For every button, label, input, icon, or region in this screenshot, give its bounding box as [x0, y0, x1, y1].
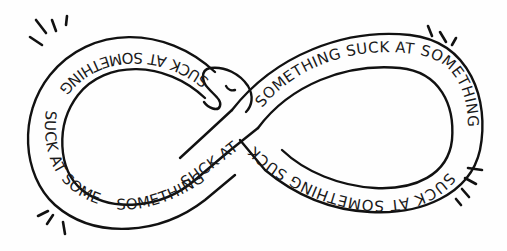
snake-eye-icon [226, 86, 235, 90]
infinity-illustration: SUCK AT SOMETHING SUCK AT SOMETHING SOME… [0, 0, 507, 251]
band-text-left-top: SUCK AT SOMETHING [55, 49, 212, 99]
band-text-left-rise: SUCK AT [177, 137, 242, 191]
band-text-left-outer: SUCK AT SOMETHING [0, 0, 104, 208]
emphasis-marks-bottom-left [38, 211, 65, 234]
emphasis-marks-top-right [428, 26, 456, 45]
snake-head-outline [203, 68, 252, 112]
band-text-right-top: SOMETHING SUCK AT SOMETHING [251, 38, 482, 128]
snake-head [203, 68, 252, 112]
emphasis-marks-top-left [30, 16, 67, 45]
band-text-group: SUCK AT SOMETHING SUCK AT SOMETHING SOME… [0, 0, 482, 215]
infinity-svg: SUCK AT SOMETHING SUCK AT SOMETHING SOME… [0, 0, 507, 251]
